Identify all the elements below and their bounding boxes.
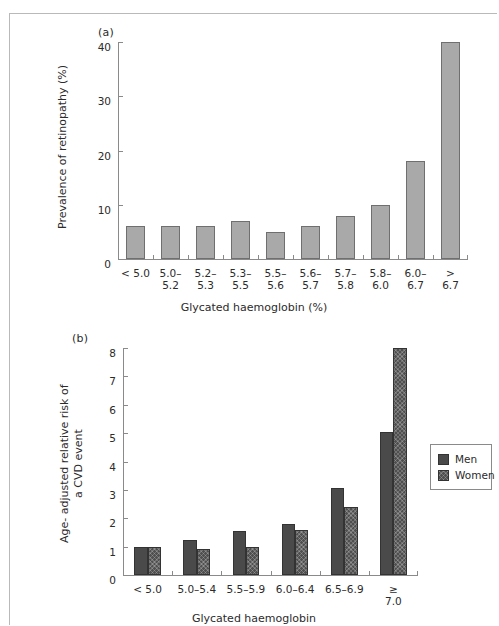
legend-swatch-women	[438, 470, 449, 481]
panel-a-x-tick-label: < 5.0	[121, 267, 150, 279]
panel-a-bar	[126, 226, 144, 259]
panel-a-x-tick-label: 5.7– 5.8	[335, 267, 357, 292]
panel-b-x-tick-label: 6.5–6.9	[325, 583, 364, 595]
panel-b-x-tick-label: 5.5–5.9	[227, 583, 266, 595]
panel-b-y-tick-label: 2	[109, 519, 123, 530]
panel-b-bar-men	[331, 488, 344, 575]
panel-a-y-tick-label: 40	[98, 42, 118, 53]
panel-b-y-tick-mark	[123, 348, 128, 349]
panel-a-x-tick-label: 5.5– 5.6	[265, 267, 287, 292]
figure-frame: (a) Prevalence of retinopathy (%) 010203…	[9, 13, 497, 625]
panel-b-y-tick-label: 0	[109, 575, 123, 586]
panel-b-y-tick-mark	[123, 518, 128, 519]
panel-a-y-tick-label: 30	[98, 97, 118, 108]
panel-b-bar-women	[246, 547, 259, 575]
panel-b-bar-women	[295, 530, 308, 575]
panel-b-y-tick-label: 6	[109, 405, 123, 416]
panel-a-x-tick-mark	[188, 255, 189, 260]
legend-label-women: Women	[455, 470, 495, 481]
panel-a-y-axis-title: Prevalence of retinopathy (%)	[56, 52, 70, 242]
panel-a-y-tick-mark	[118, 205, 123, 206]
panel-b-bar-men	[233, 531, 246, 575]
panel-a-x-tick-mark	[293, 255, 294, 260]
panel-b-y-tick-label: 7	[109, 377, 123, 388]
panel-a-x-tick-label: 6.0– 6.7	[405, 267, 427, 292]
panel-a-x-axis-title: Glycated haemoglobin (%)	[10, 301, 498, 314]
panel-b-x-tick-label: ≥ 7.0	[381, 583, 406, 608]
panel-a-bar	[196, 226, 214, 259]
panel-b-y-tick-mark	[123, 433, 128, 434]
panel-a-bar	[231, 221, 249, 259]
panel-a-x-tick-mark	[258, 255, 259, 260]
panel-b-y-tick-label: 1	[109, 547, 123, 558]
panel-b-bar-men	[380, 432, 393, 575]
panel-a-bar	[441, 42, 459, 259]
panel-b-legend: MenWomen	[430, 444, 492, 490]
panel-b-plot-area: 012345678< 5.05.0–5.45.5–5.96.0–6.46.5–6…	[123, 348, 418, 576]
panel-a-x-tick-label: 5.3– 5.5	[230, 267, 252, 292]
panel-b-y-tick-label: 5	[109, 433, 123, 444]
panel-b-x-tick-mark	[417, 571, 418, 576]
panel-b-x-tick-mark	[271, 571, 272, 576]
panel-a-y-tick-mark	[118, 151, 123, 152]
panel-b-y-tick-label: 8	[109, 348, 123, 359]
panel-b-x-tick-label: < 5.0	[133, 583, 162, 595]
panel-a-x-tick-label: 5.6– 5.7	[300, 267, 322, 292]
panel-b-y-tick-label: 4	[109, 462, 123, 473]
panel-b-bar-women	[344, 507, 357, 575]
legend-swatch-men	[438, 454, 449, 465]
panel-b-bar-men	[134, 547, 147, 575]
panel-a-bar	[161, 226, 179, 259]
panel-a-bar	[371, 205, 389, 259]
panel-b-y-axis-title: Age- adjusted relative risk of a CVD eve…	[58, 364, 86, 564]
panel-b-x-tick-mark	[369, 571, 370, 576]
panel-a-y-tick-label: 10	[98, 205, 118, 216]
legend-label-men: Men	[455, 454, 477, 465]
panel-b: (b) Age- adjusted relative risk of a CVD…	[10, 322, 498, 626]
panel-a-bar	[406, 161, 424, 259]
panel-a-bar	[266, 232, 284, 259]
panel-b-x-axis-title: Glycated haemoglobin	[10, 612, 498, 625]
panel-a-x-tick-label: 5.8– 6.0	[370, 267, 392, 292]
panel-b-x-tick-mark	[221, 571, 222, 576]
legend-item-men: Men	[438, 451, 482, 467]
panel-b-y-tick-mark	[123, 490, 128, 491]
panel-a-x-tick-label: 5.2– 5.3	[195, 267, 217, 292]
panel-b-x-tick-label: 6.0–6.4	[276, 583, 315, 595]
panel-b-x-tick-mark	[123, 571, 124, 576]
panel-a-y-tick-label: 0	[104, 259, 118, 270]
panel-a-x-tick-mark	[398, 255, 399, 260]
panel-a-letter: (a)	[98, 26, 114, 39]
panel-b-bar-men	[282, 524, 295, 575]
panel-a-y-tick-mark	[118, 96, 123, 97]
panel-b-y-tick-mark	[123, 547, 128, 548]
panel-a-x-tick-label: 5.0– 5.2	[160, 267, 182, 292]
panel-b-bar-men	[183, 540, 196, 575]
panel-a-bar	[301, 226, 319, 259]
panel-a-x-tick-mark	[433, 255, 434, 260]
legend-item-women: Women	[438, 467, 482, 483]
panel-b-y-tick-label: 3	[109, 490, 123, 501]
panel-b-y-tick-mark	[123, 462, 128, 463]
panel-b-y-tick-mark	[123, 376, 128, 377]
panel-b-y-tick-mark	[123, 405, 128, 406]
panel-b-bar-women	[197, 549, 210, 575]
panel-a: (a) Prevalence of retinopathy (%) 010203…	[10, 14, 498, 314]
panel-a-x-tick-mark	[153, 255, 154, 260]
panel-a-x-tick-mark	[223, 255, 224, 260]
panel-a-x-tick-mark	[118, 255, 119, 260]
panel-a-y-tick-label: 20	[98, 151, 118, 162]
panel-a-x-tick-mark	[467, 255, 468, 260]
panel-b-x-tick-mark	[172, 571, 173, 576]
panel-b-bar-women	[393, 348, 406, 575]
panel-a-x-tick-mark	[328, 255, 329, 260]
panel-a-bar	[336, 216, 354, 259]
panel-a-x-tick-label: > 6.7	[442, 267, 460, 292]
panel-b-bar-women	[148, 547, 161, 575]
panel-a-x-tick-mark	[363, 255, 364, 260]
panel-a-y-tick-mark	[118, 42, 123, 43]
panel-b-x-tick-label: 5.0–5.4	[177, 583, 216, 595]
panel-b-letter: (b)	[72, 332, 88, 345]
panel-b-x-tick-mark	[320, 571, 321, 576]
panel-a-plot-area: 010203040< 5.05.0– 5.25.2– 5.35.3– 5.55.…	[118, 42, 468, 260]
